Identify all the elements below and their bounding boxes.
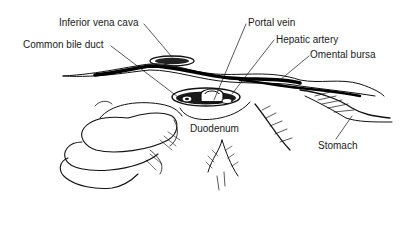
anatomy-illustration [0, 0, 411, 225]
label-common-bile-duct: Common bile duct [23, 39, 104, 50]
label-stomach: Stomach [318, 140, 357, 151]
label-duodenum: Duodenum [190, 123, 239, 134]
label-portal-vein: Portal vein [248, 17, 295, 28]
label-omental-bursa: Omental bursa [310, 49, 376, 60]
anatomy-figure: Inferior vena cava Common bile duct Port… [0, 0, 411, 225]
label-inferior-vena-cava: Inferior vena cava [59, 17, 139, 28]
hand-drawing [60, 101, 180, 188]
label-hepatic-artery: Hepatic artery [276, 34, 338, 45]
